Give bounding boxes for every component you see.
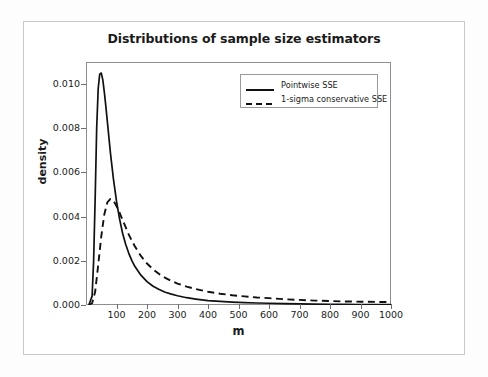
legend-label-1sigma-conservative-sse: 1-sigma conservative SSE [281,94,387,104]
y-tick-label: 0.000 [36,299,80,310]
y-tick-mark [81,84,86,85]
chart-legend: Pointwise SSE 1-sigma conservative SSE [240,74,378,108]
x-tick-mark [117,304,118,309]
x-tick-mark [178,304,179,309]
y-tick-label: 0.006 [36,166,80,177]
y-tick-mark [81,305,86,306]
series-1sigma-conservative-sse [89,199,391,305]
legend-swatch-dashed-icon [245,94,275,104]
legend-item-pointwise-sse: Pointwise SSE [245,78,373,91]
y-tick-label: 0.004 [36,211,80,222]
chart-title: Distributions of sample size estimators [23,31,465,46]
x-tick-mark [208,304,209,309]
legend-item-1sigma-conservative-sse: 1-sigma conservative SSE [245,92,373,105]
x-tick-label: 1000 [368,309,414,320]
y-tick-label: 0.008 [36,122,80,133]
legend-swatch-solid-icon [245,80,275,90]
x-tick-mark [361,304,362,309]
y-tick-mark [81,261,86,262]
page-background: Distributions of sample size estimators … [0,0,488,377]
x-tick-mark [300,304,301,309]
y-tick-label: 0.010 [36,78,80,89]
x-tick-mark [391,304,392,309]
y-tick-mark [81,172,86,173]
y-tick-mark [81,217,86,218]
x-tick-mark [147,304,148,309]
x-tick-mark [269,304,270,309]
x-axis-label: m [86,324,391,338]
legend-label-pointwise-sse: Pointwise SSE [281,80,338,90]
y-tick-mark [81,128,86,129]
x-tick-mark [330,304,331,309]
x-tick-mark [239,304,240,309]
y-tick-label: 0.002 [36,255,80,266]
